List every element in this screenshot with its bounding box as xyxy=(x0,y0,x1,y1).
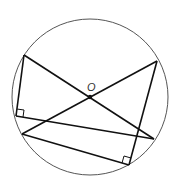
geometry-diagram: O xyxy=(0,0,176,191)
segment-ec xyxy=(16,116,154,139)
segment-ae xyxy=(16,55,24,116)
center-point xyxy=(88,95,92,99)
center-label: O xyxy=(87,81,96,93)
segment-df xyxy=(22,134,129,165)
segment-bf xyxy=(129,61,157,165)
